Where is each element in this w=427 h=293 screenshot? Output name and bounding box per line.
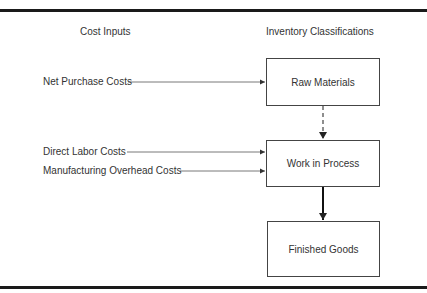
box-work-in-process: Work in Process bbox=[266, 140, 380, 187]
box-raw-materials-label: Raw Materials bbox=[291, 77, 354, 88]
input-manufacturing-overhead-costs: Manufacturing Overhead Costs bbox=[43, 165, 181, 177]
box-finished-goods: Finished Goods bbox=[267, 221, 380, 277]
box-raw-materials: Raw Materials bbox=[266, 58, 380, 106]
input-net-purchase-costs: Net Purchase Costs bbox=[43, 76, 132, 88]
bottom-rule bbox=[0, 286, 427, 289]
box-work-in-process-label: Work in Process bbox=[287, 158, 360, 169]
input-direct-labor-costs: Direct Labor Costs bbox=[43, 146, 126, 158]
box-finished-goods-label: Finished Goods bbox=[288, 244, 358, 255]
